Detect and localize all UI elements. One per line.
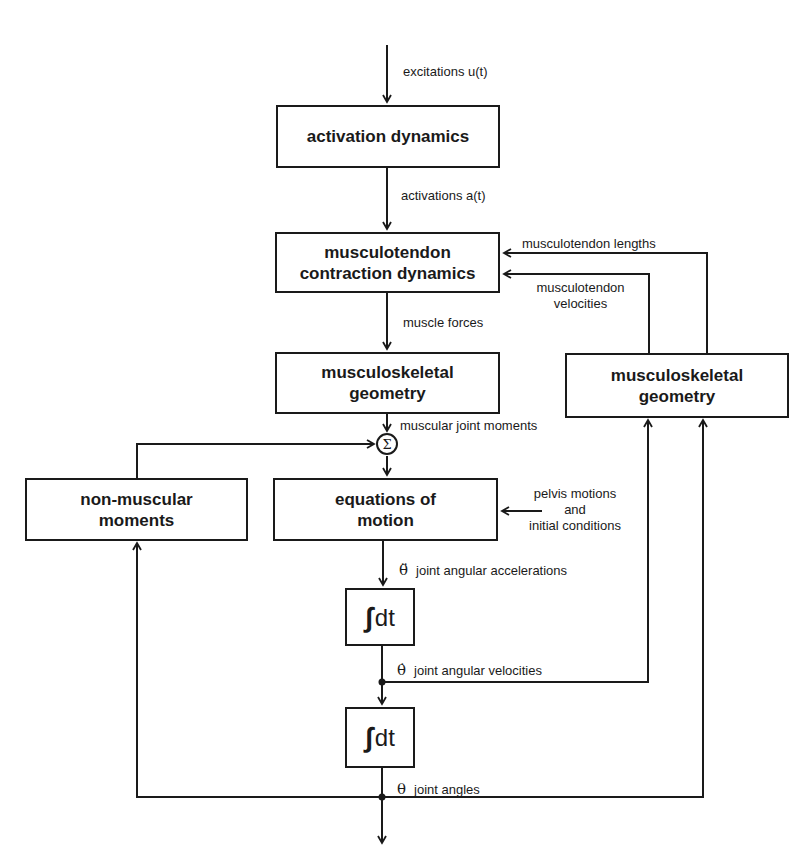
integrator-label-2: dt xyxy=(375,727,395,748)
integrator-block-2: ∫ dt xyxy=(345,707,415,768)
integral-icon: ∫ xyxy=(365,727,373,748)
activations-label: activations a(t) xyxy=(401,188,486,204)
excitations-label: excitations u(t) xyxy=(403,64,488,80)
integrator-block-1: ∫ dt xyxy=(345,588,415,646)
msk-geom-left-label-2: geometry xyxy=(349,383,426,404)
activation-dynamics-label: activation dynamics xyxy=(307,126,470,147)
summation-junction: Σ xyxy=(376,433,398,455)
integral-icon: ∫ xyxy=(365,607,373,628)
activation-dynamics-block: activation dynamics xyxy=(276,105,500,168)
theta-double-dot-icon: θ̈ xyxy=(399,561,408,579)
joint-angles-label: θjoint angles xyxy=(397,781,480,798)
vel-text: joint angular velocities xyxy=(414,663,542,678)
angle-text: joint angles xyxy=(414,782,480,797)
msk-geom-right-label-2: geometry xyxy=(639,386,716,407)
theta-dot-icon: θ̇ xyxy=(397,661,406,679)
joint-angular-velocities-label: θ̇joint angular velocities xyxy=(397,662,542,679)
musculotendon-label-2: contraction dynamics xyxy=(300,263,476,284)
pelvis-line-2: and xyxy=(516,502,634,518)
musculotendon-velocities-label: musculotendon velocities xyxy=(528,280,633,312)
musculoskeletal-geometry-left-block: musculoskeletal geometry xyxy=(275,352,500,414)
msk-geom-right-label-1: musculoskeletal xyxy=(611,365,743,386)
muscular-joint-moments-label: muscular joint moments xyxy=(400,418,537,434)
theta-icon: θ xyxy=(397,780,406,798)
musculotendon-lengths-label: musculotendon lengths xyxy=(522,236,656,252)
joint-angular-accelerations-label: θ̈joint angular accelerations xyxy=(399,562,567,579)
accel-text: joint angular accelerations xyxy=(416,563,567,578)
musculotendon-velocities-line-2: velocities xyxy=(528,296,633,312)
eom-label-1: equations of xyxy=(335,489,436,510)
pelvis-motions-label: pelvis motions and initial conditions xyxy=(516,486,634,534)
branch-point-angles xyxy=(379,794,386,801)
musculotendon-contraction-dynamics-block: musculotendon contraction dynamics xyxy=(275,232,500,293)
non-muscular-label-2: moments xyxy=(99,510,175,531)
sigma-icon: Σ xyxy=(382,437,391,452)
pelvis-line-3: initial conditions xyxy=(516,518,634,534)
eom-label-2: motion xyxy=(357,510,414,531)
non-muscular-moments-block: non-muscular moments xyxy=(25,478,248,541)
msk-geom-left-label-1: musculoskeletal xyxy=(321,362,453,383)
musculotendon-label-1: musculotendon xyxy=(324,242,451,263)
non-muscular-label-1: non-muscular xyxy=(80,489,192,510)
branch-point-velocities xyxy=(379,679,386,686)
musculotendon-velocities-line-1: musculotendon xyxy=(528,280,633,296)
pelvis-line-1: pelvis motions xyxy=(516,486,634,502)
muscle-forces-label: muscle forces xyxy=(403,315,483,331)
musculoskeletal-geometry-right-block: musculoskeletal geometry xyxy=(565,353,789,418)
equations-of-motion-block: equations of motion xyxy=(273,478,498,541)
integrator-label-1: dt xyxy=(375,607,395,628)
